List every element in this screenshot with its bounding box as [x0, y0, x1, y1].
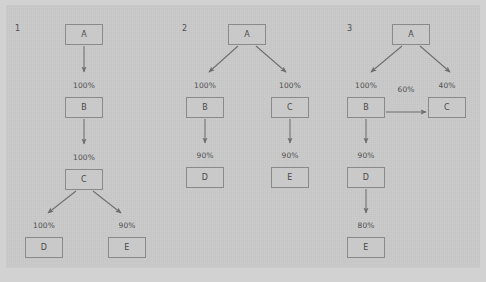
edge-label-p1-C-D: 100% [33, 221, 55, 230]
arrow-p1-C-E [93, 191, 121, 213]
panel-number-3: 3 [347, 24, 352, 33]
node-p2-E[interactable]: E [271, 167, 309, 188]
node-p1-D[interactable]: D [25, 237, 63, 258]
edge-label-p1-B-C: 100% [73, 153, 95, 162]
arrow-p3-A-C [420, 46, 450, 72]
arrow-p2-A-B [209, 46, 238, 72]
node-p1-A[interactable]: A [65, 24, 103, 45]
arrow-p3-A-B [371, 46, 402, 72]
edge-label-p3-B-C: 60% [398, 85, 415, 94]
edge-label-p2-C-E: 90% [282, 151, 299, 160]
panel-number-1: 1 [15, 24, 20, 33]
node-p3-A[interactable]: A [392, 24, 430, 45]
node-p1-E[interactable]: E [108, 237, 146, 258]
node-p3-C[interactable]: C [428, 97, 466, 118]
edge-label-p1-A-B: 100% [73, 81, 95, 90]
node-p3-D[interactable]: D [347, 167, 385, 188]
diagram-figure: 1 2 3 A B C D E 100% 100% 100% 90% A B C… [0, 0, 486, 282]
edge-label-p3-D-E: 80% [358, 221, 375, 230]
node-p2-C[interactable]: C [271, 97, 309, 118]
edge-label-p2-B-D: 90% [197, 151, 214, 160]
node-p1-C[interactable]: C [65, 169, 103, 190]
edge-label-p1-C-E: 90% [119, 221, 136, 230]
edge-label-p2-A-C: 100% [279, 81, 301, 90]
node-p3-B[interactable]: B [347, 97, 385, 118]
arrow-p1-C-D [48, 191, 76, 213]
node-p2-D[interactable]: D [186, 167, 224, 188]
edge-label-p2-A-B: 100% [194, 81, 216, 90]
panel-number-2: 2 [182, 24, 187, 33]
node-p2-A[interactable]: A [228, 24, 266, 45]
edge-label-p3-B-D: 90% [358, 151, 375, 160]
edge-label-p3-A-B: 100% [355, 81, 377, 90]
node-p2-B[interactable]: B [186, 97, 224, 118]
edge-label-p3-A-C: 40% [439, 81, 456, 90]
arrow-p2-A-C [256, 46, 286, 72]
node-p1-B[interactable]: B [65, 97, 103, 118]
node-p3-E[interactable]: E [347, 237, 385, 258]
